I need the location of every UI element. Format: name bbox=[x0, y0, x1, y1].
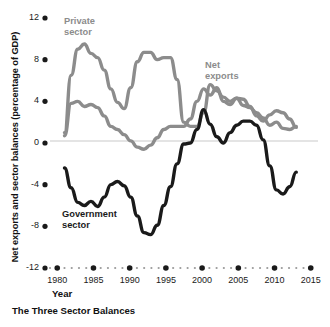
x-tick-label: 1985 bbox=[78, 275, 108, 285]
y-tick-label: -12 bbox=[17, 262, 39, 272]
x-tick-dot-minor bbox=[63, 267, 65, 269]
x-tick-dot-major bbox=[54, 265, 60, 271]
x-tick-label: 2015 bbox=[296, 275, 326, 285]
x-tick-dot-minor bbox=[49, 267, 51, 269]
x-tick-dot-major bbox=[91, 265, 97, 271]
figure-the-three-sector-balances: Net exports and sector balances (percent… bbox=[0, 0, 330, 327]
x-tick-dot-minor bbox=[143, 267, 145, 269]
y-tick-dot bbox=[42, 224, 47, 229]
x-tick-label: 1980 bbox=[42, 275, 72, 285]
series-label-government-sector: Government sector bbox=[62, 209, 117, 231]
x-tick-dot-minor bbox=[158, 267, 160, 269]
series-label-net-exports: Net exports bbox=[205, 60, 239, 82]
x-tick-dot-minor bbox=[107, 267, 109, 269]
x-tick-dot-minor bbox=[208, 267, 210, 269]
x-tick-dot-minor bbox=[187, 267, 189, 269]
y-tick-label: -8 bbox=[17, 220, 39, 230]
y-tick-label: 12 bbox=[17, 12, 39, 22]
series-label-private-sector: Private sector bbox=[64, 16, 95, 38]
x-tick-dot-minor bbox=[302, 267, 304, 269]
x-tick-dot-minor bbox=[223, 267, 225, 269]
x-tick-dot-minor bbox=[194, 267, 196, 269]
x-tick-dot-minor bbox=[150, 267, 152, 269]
x-tick-dot-major bbox=[308, 265, 314, 271]
x-tick-dot-minor bbox=[266, 267, 268, 269]
y-tick-label: 8 bbox=[17, 54, 39, 64]
x-tick-dot-minor bbox=[78, 267, 80, 269]
x-tick-dot-minor bbox=[114, 267, 116, 269]
y-tick-label: -4 bbox=[17, 179, 39, 189]
x-tick-label: 1995 bbox=[151, 275, 181, 285]
y-tick-dot bbox=[42, 15, 47, 20]
x-tick-dot-minor bbox=[259, 267, 261, 269]
x-tick-dot-minor bbox=[179, 267, 181, 269]
x-tick-dot-minor bbox=[136, 267, 138, 269]
x-tick-dot-major bbox=[127, 265, 133, 271]
x-tick-dot-minor bbox=[252, 267, 254, 269]
figure-caption: The Three Sector Balances bbox=[12, 305, 135, 316]
x-tick-dot-major bbox=[272, 265, 278, 271]
x-tick-dot-minor bbox=[288, 267, 290, 269]
y-tick-dot bbox=[42, 57, 47, 62]
x-tick-dot-minor bbox=[172, 267, 174, 269]
y-tick-dot bbox=[42, 265, 47, 270]
x-tick-label: 2000 bbox=[187, 275, 217, 285]
x-tick-dot-major bbox=[199, 265, 205, 271]
y-tick-dot bbox=[42, 182, 47, 187]
y-tick-label: 0 bbox=[17, 137, 39, 147]
y-tick-label: 4 bbox=[17, 95, 39, 105]
x-tick-dot-minor bbox=[121, 267, 123, 269]
x-tick-dot-minor bbox=[295, 267, 297, 269]
y-tick-dot bbox=[42, 140, 47, 145]
x-tick-dot-minor bbox=[281, 267, 283, 269]
x-tick-dot-major bbox=[236, 265, 242, 271]
x-tick-label: 2005 bbox=[223, 275, 253, 285]
x-axis-title: Year bbox=[52, 288, 72, 299]
x-tick-label: 2010 bbox=[260, 275, 290, 285]
x-tick-label: 1990 bbox=[115, 275, 145, 285]
x-tick-dot-minor bbox=[230, 267, 232, 269]
x-tick-dot-minor bbox=[85, 267, 87, 269]
x-tick-dot-minor bbox=[100, 267, 102, 269]
x-tick-dot-major bbox=[163, 265, 169, 271]
x-tick-dot-minor bbox=[244, 267, 246, 269]
y-axis-title: Net exports and sector balances (percent… bbox=[10, 11, 20, 283]
x-tick-dot-minor bbox=[71, 267, 73, 269]
x-tick-dot-minor bbox=[215, 267, 217, 269]
y-tick-dot bbox=[42, 99, 47, 104]
